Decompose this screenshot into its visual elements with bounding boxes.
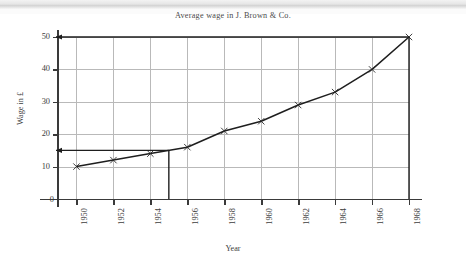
annotation-arrow-15-head [56, 148, 62, 153]
chart-figure: Average wage in J. Brown & Co. Wage in £… [0, 0, 466, 265]
data-point-marker [295, 102, 301, 108]
annotation-lines [56, 34, 409, 199]
data-line [77, 37, 410, 167]
data-point-markers [73, 34, 412, 170]
data-point-marker [369, 66, 375, 72]
data-point-marker [332, 89, 338, 95]
data-curve-layer [0, 0, 466, 265]
annotation-arrow-50-head [56, 34, 62, 39]
